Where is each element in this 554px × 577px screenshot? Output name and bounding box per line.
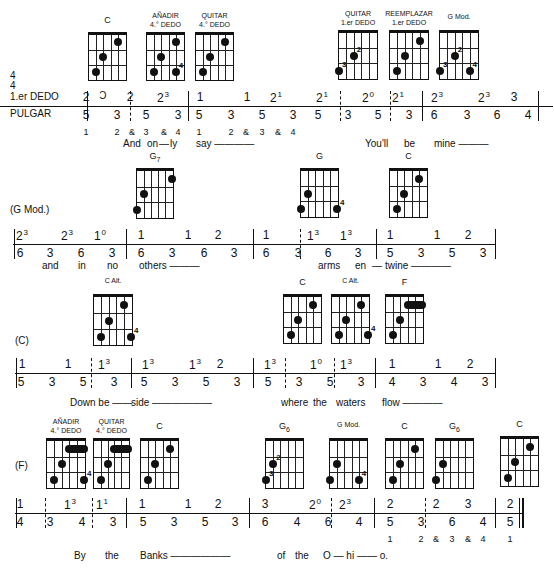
fret-superscript: 3 bbox=[486, 90, 490, 99]
thumb-string-number: 6 bbox=[17, 246, 24, 260]
lyric-word: And bbox=[123, 138, 141, 149]
chord-instruction: QUITAR4.° DEDO bbox=[185, 11, 245, 29]
lyric-word: side —————— bbox=[131, 397, 212, 408]
lyric-word: O — hi —— o. bbox=[323, 550, 388, 561]
finger-dot bbox=[151, 460, 159, 468]
finger-number: 13 bbox=[189, 357, 201, 372]
fret-superscript: 3 bbox=[24, 228, 28, 237]
lyric-word: en bbox=[355, 260, 366, 271]
finger-dot bbox=[294, 316, 302, 324]
barline bbox=[495, 498, 496, 528]
time-signature: 4 4 bbox=[10, 71, 16, 91]
barline bbox=[126, 229, 127, 259]
fret-line bbox=[301, 186, 338, 187]
chord-diagram bbox=[385, 438, 424, 489]
string-line bbox=[111, 35, 112, 80]
thumb-string-number: 3 bbox=[480, 246, 487, 260]
finger-dot bbox=[415, 175, 423, 183]
finger-number-label: 4 bbox=[371, 324, 375, 333]
chord-name: C bbox=[384, 151, 434, 161]
lyric-word: By bbox=[74, 550, 86, 561]
thumb-string-number: 5 bbox=[387, 246, 394, 260]
chord-name: C bbox=[495, 419, 545, 429]
beat-count: 1 bbox=[387, 534, 392, 544]
thumb-string-number: 3 bbox=[418, 515, 425, 529]
finger-dot bbox=[104, 460, 112, 468]
finger-number-label: 3 bbox=[443, 60, 447, 69]
string-line bbox=[346, 33, 347, 79]
thumb-string-number: 5 bbox=[315, 108, 322, 122]
string-line bbox=[447, 33, 448, 79]
finger-dot bbox=[140, 190, 148, 198]
fret-line bbox=[89, 65, 126, 66]
thumb-string-number: 3 bbox=[295, 246, 302, 260]
finger-number: 2 bbox=[215, 497, 222, 511]
staff-line bbox=[0, 106, 553, 107]
lyric-word: others ——— bbox=[139, 260, 200, 271]
thumb-string-number: 6 bbox=[325, 515, 332, 529]
fret-line bbox=[94, 329, 132, 330]
fret-line bbox=[47, 472, 85, 473]
beat-count: & bbox=[465, 534, 471, 544]
thumb-string-number: 6 bbox=[138, 246, 145, 260]
chord-diagram: 4 bbox=[146, 32, 185, 81]
thumb-string-number: 3 bbox=[110, 515, 117, 529]
fret-line bbox=[94, 472, 129, 473]
finger-number: 2 bbox=[127, 90, 134, 104]
lyric-word: ly bbox=[170, 138, 177, 149]
final-barline bbox=[519, 498, 520, 528]
string-line bbox=[315, 171, 316, 217]
finger-dot bbox=[396, 460, 404, 468]
finger-dot bbox=[357, 301, 365, 309]
finger-number: 21 bbox=[392, 90, 404, 105]
thumb-string-number: 6 bbox=[78, 246, 85, 260]
fret-line bbox=[137, 187, 173, 188]
thumb-string-number: 4 bbox=[451, 375, 458, 389]
beat-count: 1 bbox=[196, 127, 201, 137]
finger-dot bbox=[97, 333, 105, 341]
finger-dot bbox=[287, 331, 295, 339]
row-label-c: (C) bbox=[15, 335, 29, 346]
string-line bbox=[218, 35, 219, 80]
fret-line bbox=[47, 457, 85, 458]
finger-number: 20 bbox=[362, 90, 374, 105]
chord-name: C bbox=[278, 277, 328, 287]
chord-name: C Alt. bbox=[326, 277, 376, 284]
fret-line bbox=[94, 457, 129, 458]
finger-number: 11 bbox=[96, 497, 108, 512]
string-line bbox=[412, 33, 413, 79]
finger-number-label: 2 bbox=[458, 45, 462, 54]
finger-dot bbox=[396, 316, 404, 324]
barline bbox=[374, 498, 375, 528]
barre-mark bbox=[65, 445, 88, 453]
thumb-string-number: 6 bbox=[325, 246, 332, 260]
chord-instruction: REEMPLAZAR1.er DEDO bbox=[379, 9, 439, 27]
finger-number: 13 bbox=[98, 357, 110, 372]
finger-number: 23 bbox=[61, 228, 73, 243]
lyric-word: — bbox=[159, 138, 169, 149]
chord-name: C Alt. bbox=[88, 277, 138, 284]
string-line bbox=[116, 297, 117, 345]
string-line bbox=[465, 441, 466, 488]
chord-diagram bbox=[195, 32, 234, 81]
beat-count: 4 bbox=[480, 534, 485, 544]
fret-line bbox=[332, 312, 369, 313]
finger-number: 21 bbox=[270, 90, 282, 105]
fret-line bbox=[390, 48, 428, 49]
thumb-string-number: 5 bbox=[387, 515, 394, 529]
string-line bbox=[462, 33, 463, 79]
fret-line bbox=[137, 202, 173, 203]
finger-number: 2 bbox=[83, 90, 90, 104]
chord-diagram bbox=[283, 294, 322, 344]
thumb-string-number: 3 bbox=[111, 375, 118, 389]
finger-dot bbox=[114, 38, 122, 46]
beat-divider bbox=[91, 358, 92, 388]
instruction-line: QUITAR bbox=[185, 11, 245, 20]
finger-number: 13 bbox=[64, 497, 76, 512]
finger-dot bbox=[304, 190, 312, 198]
finger-dot bbox=[150, 68, 158, 76]
instruction-line: 1.er DEDO bbox=[379, 18, 439, 27]
finger-dot bbox=[333, 460, 341, 468]
fret-line bbox=[89, 50, 126, 51]
finger-dot bbox=[92, 68, 100, 76]
